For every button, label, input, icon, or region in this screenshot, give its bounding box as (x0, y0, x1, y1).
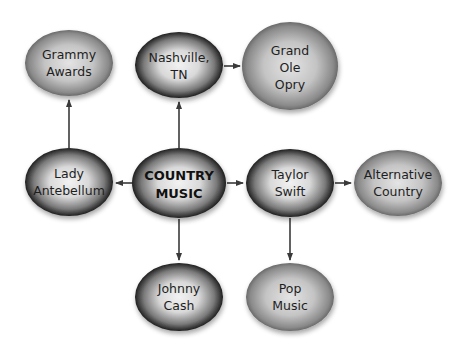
node-label: Nashville, (149, 50, 210, 65)
node-grammy-awards: Grammy Awards (25, 30, 113, 96)
node-johnny-cash: Johnny Cash (135, 263, 223, 331)
node-grand-ole-opry: Grand Ole Opry (242, 22, 338, 110)
node-label: Pop (279, 281, 302, 296)
node-label: Cash (164, 298, 195, 313)
node-alternative-country: Alternative Country (354, 150, 442, 216)
node-label: Ole (279, 60, 300, 75)
node-label: MUSIC (155, 186, 202, 201)
node-label: Taylor (271, 167, 310, 182)
node-taylor-swift: Taylor Swift (246, 149, 334, 217)
node-country-music: COUNTRY MUSIC (132, 148, 226, 218)
node-label: Lady (54, 166, 85, 181)
node-label: COUNTRY (144, 168, 214, 183)
node-label: Music (272, 298, 308, 313)
node-label: TN (170, 67, 188, 82)
node-label: Swift (275, 184, 306, 199)
concept-map-canvas: Grammy Awards Nashville, TN Grand Ole Op… (0, 0, 464, 359)
node-nashville: Nashville, TN (135, 32, 223, 98)
node-label: Grammy (42, 47, 97, 62)
node-lady-antebellum: Lady Antebellum (25, 148, 113, 216)
node-label: Awards (46, 64, 91, 79)
node-label: Alternative (364, 167, 433, 182)
node-label: Grand (271, 43, 309, 58)
node-label: Country (373, 184, 423, 199)
node-label: Antebellum (33, 183, 105, 198)
node-label: Johnny (157, 281, 201, 296)
node-pop-music: Pop Music (246, 263, 334, 331)
node-label: Opry (275, 77, 306, 92)
